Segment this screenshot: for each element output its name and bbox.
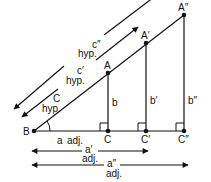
label-adj-a-prime-text: adj. — [82, 153, 98, 164]
label-a: A — [104, 60, 111, 71]
label-adj-a-text: adj. — [67, 135, 83, 146]
point-b — [32, 129, 37, 134]
label-c-prime: C′ — [141, 134, 150, 145]
point-a-double-prime — [182, 13, 187, 18]
label-c-double-prime: C″ — [178, 134, 189, 145]
label-hyp-c-prime-text: hyp. — [66, 75, 85, 86]
similar-triangles-diagram: B A A′ A″ C C′ C″ b b′ b″ C hyp. c′ hyp.… — [0, 0, 211, 182]
label-hyp-c-text: hyp. — [42, 103, 61, 114]
point-a-prime — [144, 41, 149, 46]
point-c — [106, 129, 111, 134]
angle-arc-b — [47, 121, 50, 131]
label-a-double-prime: A″ — [178, 2, 189, 13]
label-adj-a: a — [57, 135, 63, 146]
label-c: C — [104, 134, 111, 145]
label-adj-a-double-prime-text: adj. — [106, 168, 122, 179]
point-c-double-prime — [182, 129, 187, 134]
point-c-prime — [144, 129, 149, 134]
label-hyp-c-double-prime-text: hyp. — [78, 48, 97, 59]
label-a-prime: A′ — [141, 30, 150, 41]
label-b: B — [23, 126, 30, 137]
hyp-c-double-prime-arrow-upper — [104, 0, 158, 35]
label-leg-b-prime: b′ — [150, 95, 158, 106]
point-a — [106, 71, 111, 76]
label-leg-b: b — [112, 97, 118, 108]
label-leg-b-double-prime: b″ — [188, 95, 198, 106]
